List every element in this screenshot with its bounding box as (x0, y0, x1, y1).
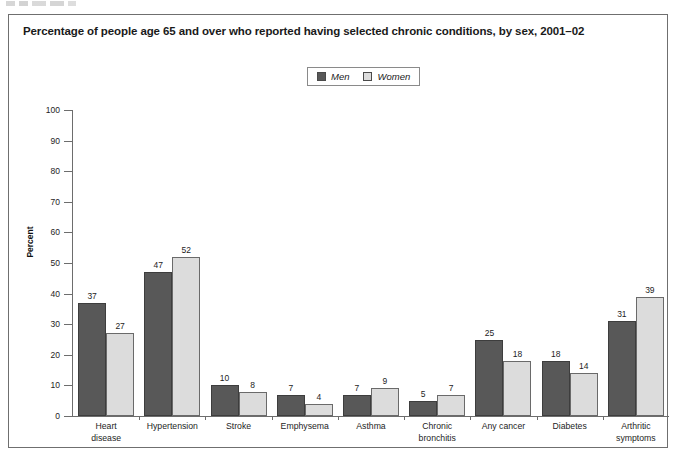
bar-slot-men: 7 (277, 110, 305, 416)
bar-men (144, 272, 172, 416)
bar-value-label: 9 (371, 376, 399, 386)
y-axis-tick-label: 30 (31, 319, 60, 329)
y-axis-tick (64, 110, 72, 111)
bar-slot-men: 25 (475, 110, 503, 416)
bar-men (475, 340, 503, 417)
plot-area: Percent 1009080706050403020100 372747521… (9, 15, 669, 449)
bar-slot-men: 7 (343, 110, 371, 416)
x-axis-tick (404, 416, 405, 420)
bar-women (106, 333, 134, 416)
bar-slot-women: 52 (172, 110, 200, 416)
y-axis-tick-label: 80 (31, 166, 60, 176)
y-axis-tick-label: 0 (31, 411, 60, 421)
x-axis-tick (603, 416, 604, 420)
y-axis-tick (64, 385, 72, 386)
x-axis-category-label: Stroke (205, 421, 271, 444)
bar-group: 1814 (537, 110, 603, 416)
bar-women (570, 373, 598, 416)
bar-slot-men: 47 (144, 110, 172, 416)
bar-value-label: 18 (503, 349, 531, 359)
bar-group: 2518 (470, 110, 536, 416)
bar-men (409, 401, 437, 416)
bar-group: 57 (404, 110, 470, 416)
category-label-line: Diabetes (537, 421, 603, 433)
x-axis-category-labels: HeartdiseaseHypertensionStrokeEmphysemaA… (73, 421, 669, 444)
bar-men (343, 395, 371, 416)
x-axis-category-label: Emphysema (272, 421, 338, 444)
x-axis-tick (139, 416, 140, 420)
bar-value-label: 39 (636, 285, 664, 295)
y-axis-tick (64, 141, 72, 142)
x-axis-category-label: Diabetes (537, 421, 603, 444)
y-axis-tick-label: 10 (31, 380, 60, 390)
category-label-line: Asthma (338, 421, 404, 433)
x-axis-tick (205, 416, 206, 420)
bar-slot-women: 8 (239, 110, 267, 416)
bar-slot-women: 9 (371, 110, 399, 416)
bar-slot-women: 4 (305, 110, 333, 416)
y-axis-tick-label: 20 (31, 350, 60, 360)
y-axis-tick-label: 50 (31, 258, 60, 268)
x-axis-category-label: Chronicbronchitis (404, 421, 470, 444)
bar-value-label: 25 (475, 328, 503, 338)
y-axis-tick-label: 60 (31, 227, 60, 237)
x-axis-tick (537, 416, 538, 420)
bar-value-label: 7 (277, 383, 305, 393)
y-axis-tick (64, 416, 72, 417)
bar-value-label: 14 (570, 361, 598, 371)
bar-slot-women: 27 (106, 110, 134, 416)
bar-slot-women: 14 (570, 110, 598, 416)
y-axis-tick (64, 294, 72, 295)
bar-value-label: 10 (211, 373, 239, 383)
category-label-line: disease (73, 433, 139, 445)
x-axis-tick (272, 416, 273, 420)
bar-value-label: 37 (78, 291, 106, 301)
y-axis-tick-label: 100 (31, 105, 60, 115)
bar-value-label: 18 (542, 349, 570, 359)
bar-value-label: 5 (409, 389, 437, 399)
category-label-line: Arthritic (603, 421, 669, 433)
figure-frame: Percentage of people age 65 and over who… (8, 14, 668, 448)
bar-slot-men: 10 (211, 110, 239, 416)
bar-slot-men: 18 (542, 110, 570, 416)
scan-edge-artifact (6, 1, 76, 6)
y-axis-tick (64, 232, 72, 233)
bar-value-label: 47 (144, 260, 172, 270)
bar-group: 74 (272, 110, 338, 416)
x-axis-category-label: Any cancer (470, 421, 536, 444)
category-label-line: Heart (73, 421, 139, 433)
bar-slot-women: 7 (437, 110, 465, 416)
category-label-line: Stroke (205, 421, 271, 433)
bar-slot-men: 31 (608, 110, 636, 416)
bar-value-label: 8 (239, 380, 267, 390)
x-axis-category-label: Asthma (338, 421, 404, 444)
bar-women (503, 361, 531, 416)
bar-value-label: 52 (172, 245, 200, 255)
x-axis-category-label: Arthriticsymptoms (603, 421, 669, 444)
bar-women (371, 388, 399, 416)
bar-slot-women: 39 (636, 110, 664, 416)
y-axis-tick (64, 263, 72, 264)
bar-women (437, 395, 465, 416)
x-axis-tick (470, 416, 471, 420)
bar-value-label: 27 (106, 321, 134, 331)
bar-women (172, 257, 200, 416)
bar-group: 108 (205, 110, 271, 416)
bar-men (608, 321, 636, 416)
category-label-line: bronchitis (404, 433, 470, 445)
y-axis-tick (64, 324, 72, 325)
bar-group: 4752 (139, 110, 205, 416)
category-label-line: Hypertension (139, 421, 205, 433)
y-axis-tick (64, 355, 72, 356)
y-axis-tick-label: 70 (31, 197, 60, 207)
bar-slot-men: 37 (78, 110, 106, 416)
bar-value-label: 4 (305, 392, 333, 402)
y-axis-tick-label: 90 (31, 136, 60, 146)
bar-men (211, 385, 239, 416)
category-label-line: symptoms (603, 433, 669, 445)
x-axis-tick (338, 416, 339, 420)
bar-value-label: 7 (343, 383, 371, 393)
category-label-line: Chronic (404, 421, 470, 433)
category-label-line: Any cancer (470, 421, 536, 433)
bar-men (542, 361, 570, 416)
